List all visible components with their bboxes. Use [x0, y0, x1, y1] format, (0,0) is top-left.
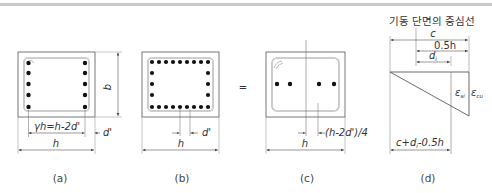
panel-c: (h-2d')/4 h (c): [266, 40, 368, 184]
rebar-right-column: [83, 61, 87, 109]
caption-c: (c): [300, 172, 314, 184]
eps-cu-label: εcu: [471, 87, 483, 99]
rebar-side-columns: [150, 71, 210, 97]
rebar-top-row: [150, 60, 210, 64]
width-h-label: h: [53, 138, 59, 149]
d-i-label: di: [429, 50, 437, 62]
column-section-diagram: b γh=h-2d' d' h (a) d': [0, 0, 492, 193]
panel-a: b γh=h-2d' d' h (a): [18, 52, 122, 184]
eps-si-label: εsi: [455, 87, 465, 99]
caption-d: (d): [421, 172, 436, 184]
offset-label: (h-2d')/4: [325, 127, 368, 138]
dim-b-label: b: [102, 84, 113, 90]
width-h-label: h: [302, 138, 308, 149]
panel-d: 기동 단면의 중심선 c 0.5h di εsi εcu c+di-0.5h (…: [389, 15, 484, 184]
equals-sign: =: [239, 82, 247, 93]
stirrup: [272, 58, 339, 111]
rebar-bottom-row: [150, 105, 210, 109]
cover-d-label: d': [103, 127, 112, 138]
stirrup: [24, 58, 89, 111]
panel-b: d' h (b): [142, 52, 219, 184]
c-label: c: [430, 28, 436, 39]
cover-d-label: d': [202, 127, 211, 138]
rebar-left-column: [26, 61, 30, 109]
bottom-dim-label: c+di-0.5h: [396, 137, 444, 149]
caption-b: (b): [175, 172, 190, 184]
inner-dimension-label: γh=h-2d': [34, 121, 80, 132]
centerline-title: 기동 단면의 중심선: [389, 15, 476, 27]
caption-a: (a): [53, 172, 68, 184]
hook-icon: [274, 61, 283, 69]
width-h-label: h: [178, 138, 184, 149]
stirrup: [148, 58, 213, 111]
half-h-label: 0.5h: [434, 40, 456, 51]
rebar-equivalent: [275, 82, 336, 86]
